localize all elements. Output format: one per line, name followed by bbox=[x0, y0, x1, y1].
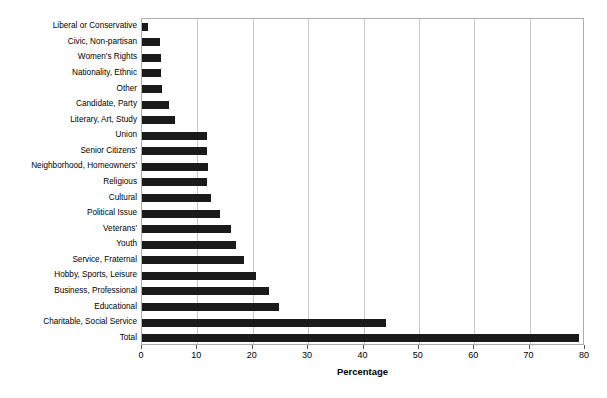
x-tick-mark bbox=[141, 345, 142, 349]
bar bbox=[142, 54, 161, 62]
bar bbox=[142, 69, 161, 77]
bar bbox=[142, 178, 207, 186]
x-axis-title: Percentage bbox=[141, 366, 584, 377]
bar-row bbox=[142, 330, 583, 346]
category-label: Religious bbox=[0, 177, 137, 186]
x-tick-label: 0 bbox=[126, 350, 156, 361]
category-label: Business, Professional bbox=[0, 286, 137, 295]
bar-row bbox=[142, 221, 583, 237]
bar-row bbox=[142, 299, 583, 315]
bar-row bbox=[142, 19, 583, 35]
bar bbox=[142, 210, 220, 218]
bar-row bbox=[142, 284, 583, 300]
category-label: Political Issue bbox=[0, 208, 137, 217]
bar bbox=[142, 194, 211, 202]
bar-row bbox=[142, 253, 583, 269]
bar bbox=[142, 319, 386, 327]
bar-row bbox=[142, 97, 583, 113]
category-label: Youth bbox=[0, 239, 137, 248]
x-tick-mark bbox=[307, 345, 308, 349]
bar bbox=[142, 132, 207, 140]
category-label: Neighborhood, Homeowners' bbox=[0, 161, 137, 170]
x-tick-mark bbox=[418, 345, 419, 349]
plot-area bbox=[141, 18, 584, 345]
category-label: Hobby, Sports, Leisure bbox=[0, 270, 137, 279]
bar-row bbox=[142, 268, 583, 284]
bar-row bbox=[142, 112, 583, 128]
bar-row bbox=[142, 237, 583, 253]
x-tick-label: 20 bbox=[237, 350, 267, 361]
category-label: Literary, Art, Study bbox=[0, 115, 137, 124]
bar-row bbox=[142, 159, 583, 175]
x-tick-label: 30 bbox=[292, 350, 322, 361]
category-label: Total bbox=[0, 333, 137, 342]
bar bbox=[142, 225, 231, 233]
bar-row bbox=[142, 175, 583, 191]
bar bbox=[142, 334, 579, 342]
x-tick-mark bbox=[252, 345, 253, 349]
x-tick-mark bbox=[196, 345, 197, 349]
category-label: Women's Rights bbox=[0, 52, 137, 61]
bar-chart: Liberal or ConservativeCivic, Non-partis… bbox=[0, 0, 607, 398]
bar-row bbox=[142, 66, 583, 82]
bar bbox=[142, 85, 162, 93]
category-label: Nationality, Ethnic bbox=[0, 68, 137, 77]
x-tick-label: 50 bbox=[403, 350, 433, 361]
bar bbox=[142, 101, 169, 109]
x-tick-mark bbox=[529, 345, 530, 349]
bar bbox=[142, 163, 208, 171]
x-tick-mark bbox=[584, 345, 585, 349]
bar-row bbox=[142, 315, 583, 331]
x-tick-label: 70 bbox=[514, 350, 544, 361]
x-tick-label: 10 bbox=[181, 350, 211, 361]
bar-row bbox=[142, 50, 583, 66]
bar bbox=[142, 272, 256, 280]
bar-row bbox=[142, 144, 583, 160]
bar-row bbox=[142, 81, 583, 97]
bar bbox=[142, 23, 148, 31]
category-label: Service, Fraternal bbox=[0, 255, 137, 264]
category-label: Veterans' bbox=[0, 224, 137, 233]
x-tick-label: 40 bbox=[348, 350, 378, 361]
bar-row bbox=[142, 35, 583, 51]
category-label: Educational bbox=[0, 302, 137, 311]
bar bbox=[142, 38, 160, 46]
bar-series bbox=[142, 19, 583, 344]
bar bbox=[142, 241, 236, 249]
bar bbox=[142, 287, 269, 295]
category-label: Senior Citizens' bbox=[0, 146, 137, 155]
x-tick-label: 80 bbox=[569, 350, 599, 361]
category-label: Other bbox=[0, 84, 137, 93]
category-label: Charitable, Social Service bbox=[0, 317, 137, 326]
bar-row bbox=[142, 128, 583, 144]
category-label: Civic, Non-partisan bbox=[0, 37, 137, 46]
bar-row bbox=[142, 206, 583, 222]
category-label: Union bbox=[0, 130, 137, 139]
bar bbox=[142, 303, 279, 311]
bar bbox=[142, 147, 207, 155]
bar-row bbox=[142, 190, 583, 206]
category-label: Candidate, Party bbox=[0, 99, 137, 108]
x-tick-label: 60 bbox=[458, 350, 488, 361]
bar bbox=[142, 256, 244, 264]
category-label: Cultural bbox=[0, 193, 137, 202]
x-tick-mark bbox=[473, 345, 474, 349]
category-label: Liberal or Conservative bbox=[0, 21, 137, 30]
x-tick-mark bbox=[363, 345, 364, 349]
bar bbox=[142, 116, 175, 124]
category-axis-labels: Liberal or ConservativeCivic, Non-partis… bbox=[0, 18, 137, 345]
